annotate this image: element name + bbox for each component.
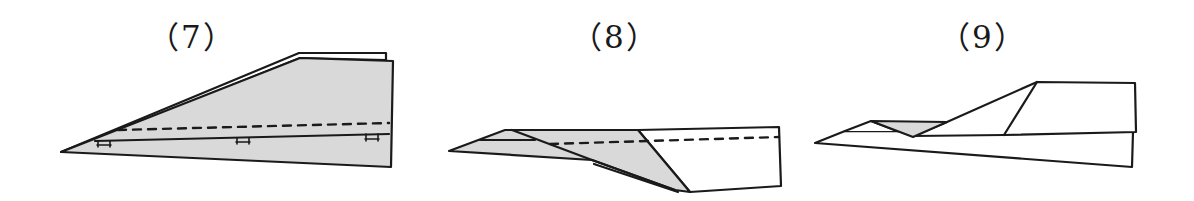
step-7-shaded-body [61,58,393,167]
step-9-diagram [815,82,1136,167]
step-8-diagram [449,127,781,192]
diagram-canvas [0,0,1194,201]
step-7-diagram [61,53,393,167]
step-9-wing [913,82,1136,136]
